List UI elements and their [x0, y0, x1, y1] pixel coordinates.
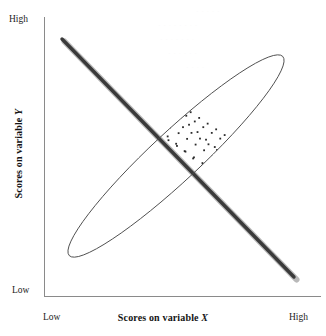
scatter-point [83, 82, 85, 84]
scatterplot-figure: · · · · · · · · · · · · · · · · · · · · … [0, 0, 326, 336]
scatter-point [253, 161, 255, 163]
scatter-point [106, 75, 108, 77]
scatter-point [130, 71, 132, 73]
scatter-point [233, 160, 235, 162]
scatter-point [49, 30, 51, 32]
scatter-point-group [49, 24, 318, 255]
scatter-point [276, 188, 278, 190]
scatter-point [244, 191, 246, 193]
scatter-point [284, 194, 286, 196]
scatter-point [117, 69, 119, 71]
scatter-point [100, 58, 102, 60]
scatter-point [96, 49, 98, 51]
scatter-point [311, 237, 313, 239]
scatter-point [241, 146, 243, 148]
scatter-point [147, 83, 149, 85]
scatter-point [297, 211, 299, 213]
scatter-point [194, 121, 196, 123]
scatter-point [53, 26, 55, 28]
scatter-point [210, 172, 212, 174]
plot-area [0, 0, 326, 336]
scatter-point [211, 132, 213, 134]
scatter-point [165, 115, 167, 117]
scatter-point [171, 109, 173, 111]
scatter-point [292, 180, 294, 182]
scatter-point [52, 46, 54, 48]
scatter-point [199, 138, 201, 140]
scatter-point [214, 146, 216, 148]
scatter-point [149, 121, 151, 123]
scatter-point [148, 103, 150, 105]
scatter-point [262, 166, 264, 168]
scatter-point [280, 200, 282, 202]
scatter-point [160, 98, 162, 100]
scatter-point [161, 121, 163, 123]
scatter-point [245, 155, 247, 157]
scatter-point [94, 43, 96, 45]
scatter-point [310, 253, 312, 255]
scatter-point [79, 38, 81, 40]
x-axis-title-variable: X [201, 312, 208, 323]
scatter-point [218, 180, 220, 182]
scatter-point [285, 229, 287, 231]
scatter-point [105, 54, 107, 56]
scatter-point [270, 208, 272, 210]
scatter-point [258, 157, 260, 159]
scatter-point [63, 48, 65, 50]
scatter-point [208, 143, 210, 145]
scatter-point [205, 139, 207, 141]
scatter-point [276, 220, 278, 222]
scatter-point [108, 99, 110, 101]
scatter-point [175, 143, 177, 145]
scatter-point [137, 79, 139, 81]
scatter-point [270, 224, 272, 226]
scatter-point [140, 98, 142, 100]
scatter-point [202, 126, 204, 128]
scatter-point [228, 143, 230, 145]
scatter-point [74, 77, 76, 79]
regression-line [62, 39, 294, 277]
scatter-point [111, 57, 113, 59]
scatter-point [246, 177, 248, 179]
scatter-point [261, 202, 263, 204]
scatter-point [278, 214, 280, 216]
scatter-point [267, 183, 269, 185]
scatter-point [225, 155, 227, 157]
scatter-point [248, 175, 250, 177]
scatter-point [114, 81, 116, 83]
y-axis-title-variable: Y [13, 109, 24, 115]
scatter-point [186, 138, 188, 140]
scatter-point [297, 234, 299, 236]
scatter-point [270, 172, 272, 174]
scatter-point [222, 153, 224, 155]
scatter-point [156, 88, 158, 90]
scatter-point [75, 44, 77, 46]
scatter-point [286, 219, 288, 221]
scatter-point [278, 231, 280, 233]
scatter-point [68, 59, 70, 61]
scatter-point [231, 161, 233, 163]
scatter-point [56, 41, 58, 43]
scatter-point [97, 69, 99, 71]
scatter-point [70, 35, 72, 37]
x-axis-title: Scores on variable X [0, 312, 326, 323]
scatter-point [157, 109, 159, 111]
scatter-point [304, 195, 306, 197]
scatter-point [144, 109, 146, 111]
scatter-point [229, 167, 231, 169]
scatter-point [122, 66, 124, 68]
y-axis-low-label: Low [12, 285, 29, 295]
scatter-point [64, 27, 66, 29]
scatter-point [310, 223, 312, 225]
scatter-point [58, 24, 60, 26]
scatter-point [173, 100, 175, 102]
scatter-point [131, 92, 133, 94]
scatter-point [295, 225, 297, 227]
scatter-point [242, 165, 244, 167]
scatter-point [191, 132, 193, 134]
scatter-point [210, 168, 212, 170]
scatter-point [254, 183, 256, 185]
scatter-point [302, 244, 304, 246]
scatter-point [127, 98, 129, 100]
scatter-point [51, 52, 53, 54]
